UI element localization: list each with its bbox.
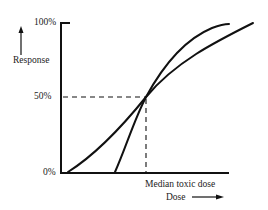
chart-canvas [0, 0, 268, 210]
response-arrow-icon [19, 26, 24, 55]
y-axis [61, 23, 70, 173]
y-axis-label: Response [13, 56, 49, 66]
dose-arrow-icon [192, 195, 224, 200]
y-tick-100: 100% [34, 18, 56, 28]
x-axis-label: Dose [166, 193, 186, 203]
median-toxic-dose-label: Median toxic dose [145, 180, 215, 190]
steep-dose-response-curve [115, 24, 229, 172]
y-tick-50: 50% [34, 92, 51, 102]
y-tick-0: 0% [43, 168, 56, 178]
gradual-dose-response-curve [68, 23, 253, 172]
median-reference-lines [63, 97, 146, 172]
